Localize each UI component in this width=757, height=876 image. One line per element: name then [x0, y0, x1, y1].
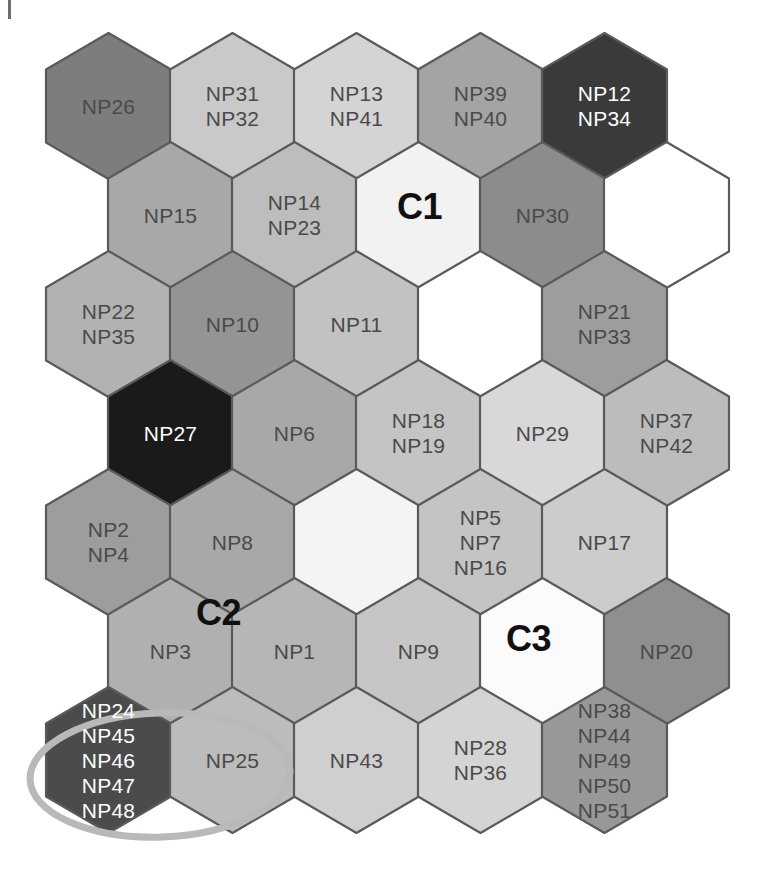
cluster-label-c1: C1 [397, 186, 442, 228]
som-hex-map [0, 0, 757, 876]
cluster-label-c2: C2 [196, 592, 241, 634]
cluster-label-c3: C3 [506, 618, 551, 660]
